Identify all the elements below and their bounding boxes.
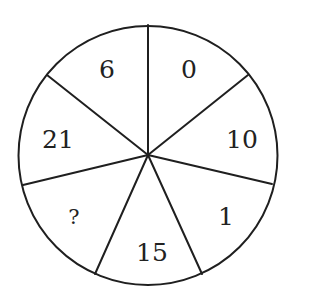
- sector-right-value: 10: [226, 127, 258, 152]
- sector-left-value: 21: [42, 127, 74, 152]
- sector-bottom-value: 15: [136, 240, 168, 265]
- sector-top-left-value: 6: [99, 57, 115, 82]
- sector-unknown-value: ?: [68, 207, 79, 228]
- sector-top-right-value: 0: [181, 57, 197, 82]
- sector-lower-right-value: 1: [218, 204, 234, 229]
